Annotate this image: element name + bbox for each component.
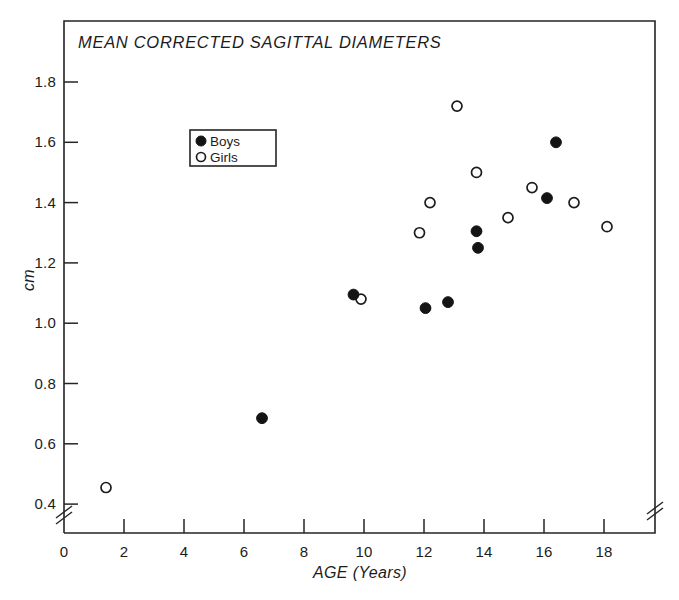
data-point-boys (473, 242, 484, 253)
y-axis-label: cm (20, 269, 37, 291)
data-point-girls (527, 183, 537, 193)
x-tick-label: 4 (180, 543, 189, 560)
x-tick-label: 0 (60, 543, 69, 560)
data-points-boys (257, 137, 562, 424)
data-point-boys (551, 137, 562, 148)
y-tick-label: 1.8 (35, 73, 56, 90)
x-tick-label: 14 (475, 543, 492, 560)
y-tick-label: 1.0 (35, 314, 56, 331)
legend-marker-boys-icon (196, 136, 206, 146)
data-point-boys (542, 193, 553, 204)
data-point-girls (425, 198, 435, 208)
data-point-girls (472, 167, 482, 177)
y-tick-label: 1.2 (35, 254, 56, 271)
x-axis-ticks: 024681012141618 (60, 519, 613, 560)
x-tick-label: 18 (595, 543, 612, 560)
axis-break-marks (56, 502, 663, 524)
data-point-girls (602, 222, 612, 232)
x-tick-label: 2 (120, 543, 129, 560)
data-point-boys (420, 303, 431, 314)
data-point-boys (257, 413, 268, 424)
chart-title: MEAN CORRECTED SAGITTAL DIAMETERS (78, 33, 442, 51)
data-point-boys (471, 226, 482, 237)
x-axis-label: AGE (Years) (312, 564, 407, 581)
data-point-girls (569, 198, 579, 208)
data-point-girls (452, 101, 462, 111)
data-point-boys (443, 297, 454, 308)
y-tick-label: 0.8 (35, 375, 56, 392)
y-tick-label: 1.4 (35, 194, 56, 211)
y-tick-label: 0.4 (35, 495, 56, 512)
x-tick-label: 8 (300, 543, 309, 560)
data-point-girls (415, 228, 425, 238)
data-point-girls (503, 213, 513, 223)
y-tick-label: 1.6 (35, 133, 56, 150)
scatter-plot-figure: 0.40.60.81.01.21.41.61.8 024681012141618… (0, 0, 679, 600)
y-axis-ticks: 0.40.60.81.01.21.41.61.8 (35, 73, 78, 512)
data-point-girls (101, 483, 111, 493)
legend: Boys Girls (190, 130, 276, 166)
x-tick-label: 6 (240, 543, 249, 560)
x-tick-label: 12 (415, 543, 432, 560)
frame-border (64, 21, 655, 533)
plot-frame (64, 21, 655, 533)
x-tick-label: 10 (355, 543, 372, 560)
legend-label-boys: Boys (210, 134, 240, 149)
legend-label-girls: Girls (210, 150, 238, 165)
legend-marker-girls-icon (197, 153, 206, 162)
chart-canvas: 0.40.60.81.01.21.41.61.8 024681012141618… (0, 0, 679, 600)
y-tick-label: 0.6 (35, 435, 56, 452)
x-tick-label: 16 (535, 543, 552, 560)
data-point-boys (348, 289, 359, 300)
